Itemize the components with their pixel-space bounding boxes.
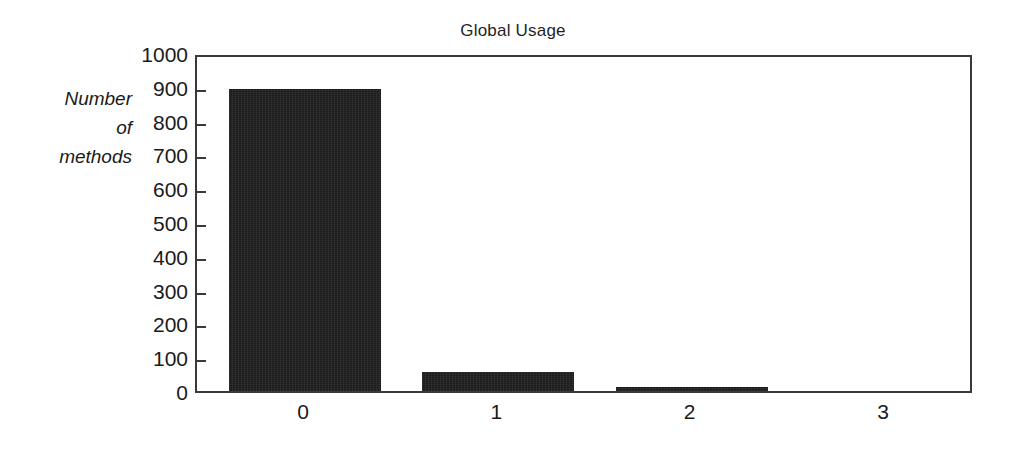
y-axis-tick-label: 900	[118, 78, 188, 99]
bar	[229, 89, 381, 392]
x-axis-tick-label: 2	[650, 400, 730, 424]
y-axis-tick-label: 300	[118, 281, 188, 302]
x-axis-tick-label: 3	[843, 400, 923, 424]
y-axis-tick-label: 0	[118, 382, 188, 403]
bars-layer	[197, 57, 970, 391]
x-axis-tick-label: 1	[456, 400, 536, 424]
bar	[616, 387, 768, 391]
bar	[422, 372, 574, 391]
x-axis-tick-label: 0	[263, 400, 343, 424]
y-axis-tick-label: 500	[118, 213, 188, 234]
y-axis-tick-label: 100	[118, 348, 188, 369]
plot-area	[195, 55, 972, 393]
y-axis-tick-label: 400	[118, 247, 188, 268]
y-axis-tick-label: 800	[118, 112, 188, 133]
y-axis-tick-label: 600	[118, 179, 188, 200]
y-axis-tick-label: 200	[118, 314, 188, 335]
chart-title: Global Usage	[0, 20, 1026, 41]
y-axis-tick-label: 700	[118, 145, 188, 166]
chart-figure: Global Usage Number of methods 010020030…	[0, 0, 1026, 450]
x-axis-tick-labels: 0123	[195, 400, 972, 430]
y-axis-tick-labels: 01002003004005006007008009001000	[110, 55, 188, 393]
y-axis-tick-label: 1000	[118, 44, 188, 65]
